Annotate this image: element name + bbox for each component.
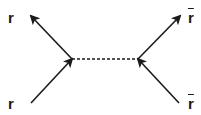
feynman-diagram xyxy=(0,0,201,115)
outgoing-line-top-left xyxy=(31,16,72,59)
label-bottom-left: r xyxy=(8,96,14,111)
label-bottom-right-antiparticle: r xyxy=(188,96,194,111)
outgoing-line-top-right xyxy=(138,16,180,59)
incoming-line-bottom-left xyxy=(31,59,72,103)
label-top-left: r xyxy=(8,10,14,25)
label-top-right-antiparticle: r xyxy=(188,10,194,25)
incoming-line-bottom-right xyxy=(138,59,179,103)
